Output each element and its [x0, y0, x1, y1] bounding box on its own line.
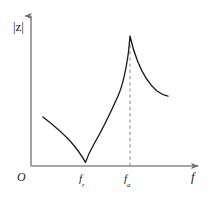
tick-label-resonance-frequency: fr	[79, 173, 85, 187]
tick-fr-subscript: r	[82, 181, 85, 189]
x-axis-label: f	[191, 170, 195, 183]
impedance-curve	[43, 36, 168, 162]
origin-label: O	[17, 171, 26, 183]
tick-fa-subscript: a	[127, 181, 131, 189]
tick-label-antiresonance-frequency: fa	[124, 173, 131, 187]
y-axis-label: |z|	[13, 20, 24, 33]
impedance-frequency-chart: |z| O f fr fa	[0, 0, 220, 200]
plot-area	[0, 0, 220, 200]
